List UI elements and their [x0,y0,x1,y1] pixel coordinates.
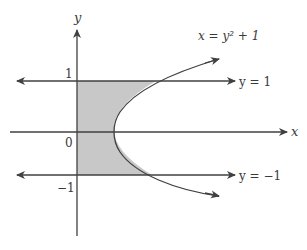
parabola-arrow-top [205,59,219,63]
line-y1-label: y = 1 [238,75,271,89]
line-yneg1-label: y = −1 [238,169,281,183]
shaded-region [77,81,156,175]
x-axis-label: x [291,124,299,139]
parabola-label: x = y² + 1 [198,29,259,43]
tick-label-neg1: −1 [57,181,75,195]
tick-label-0: 0 [65,136,73,150]
tick-label-1: 1 [65,67,73,81]
diagram-canvas: y x 1 0 −1 x = y² + 1 y = 1 y = −1 [0,0,307,250]
y-axis-label: y [73,10,82,25]
